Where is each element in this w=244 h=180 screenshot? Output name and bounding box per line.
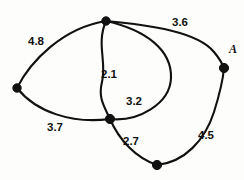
edge-weight-label-3-2: 3.2 (126, 95, 142, 107)
vertex-label-a: A (228, 42, 237, 56)
edge-weight-label-4-8: 4.8 (28, 35, 45, 47)
vertex-bottom (152, 160, 161, 169)
edge-weight-label-3-6: 3.6 (172, 16, 188, 28)
edge-weight-label-2-7: 2.7 (123, 135, 139, 147)
edge-bottom-a (157, 68, 224, 165)
edge-weight-label-3-7: 3.7 (47, 121, 63, 133)
edge-weight-label-4-5: 4.5 (198, 129, 215, 141)
vertex-name-label-group: A (228, 42, 237, 56)
vertex-top (102, 17, 110, 25)
edge-weight-label-2-1: 2.1 (101, 68, 118, 80)
edge-left-middle (17, 88, 110, 120)
vertex-middle (105, 114, 114, 123)
vertex-a (219, 63, 228, 72)
weighted-graph-figure: 4.8 2.1 3.2 3.6 3.7 2.7 4.5 A (0, 0, 244, 180)
edge-top-a (106, 21, 224, 68)
edge-left-top (17, 21, 106, 88)
edge-group (17, 21, 224, 165)
graph-canvas: 4.8 2.1 3.2 3.6 3.7 2.7 4.5 A (0, 0, 244, 180)
vertex-left (13, 84, 21, 92)
